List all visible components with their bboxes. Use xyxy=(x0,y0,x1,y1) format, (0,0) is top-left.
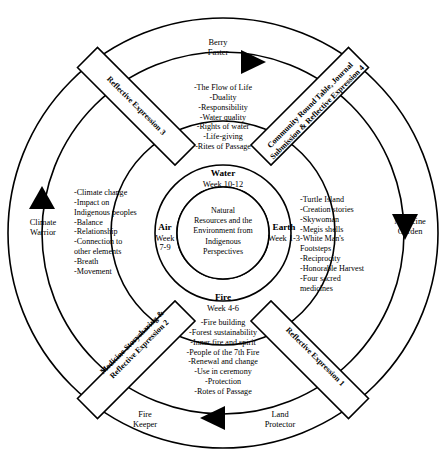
quadrant-items-air: -Climate change -Impact on Indigenous pe… xyxy=(74,188,184,277)
outer-role-medicine-garden: Medicine Garden xyxy=(377,217,443,238)
quadrant-items-earth: -Turtle Island -Creation stories -Skywom… xyxy=(300,195,404,294)
element-name-water: Water xyxy=(183,168,263,178)
outer-role-berry-faster: Berry Faster xyxy=(183,38,253,59)
outer-role-fire-keeper: Fire Keeper xyxy=(113,410,177,431)
medicine-wheel-diagram: Natural Resources and the Environment fr… xyxy=(0,0,446,465)
element-week-fire: Week 4-6 xyxy=(178,304,268,313)
outer-role-climate-warrior: Climate Warrior xyxy=(10,218,76,239)
quadrant-items-fire: -Fire building -Forest sustainability -I… xyxy=(155,318,291,397)
element-week-water: Week 10-12 xyxy=(178,180,268,189)
center-label: Natural Resources and the Environment fr… xyxy=(178,206,268,257)
outer-role-land-protector: Land Protector xyxy=(245,410,315,431)
